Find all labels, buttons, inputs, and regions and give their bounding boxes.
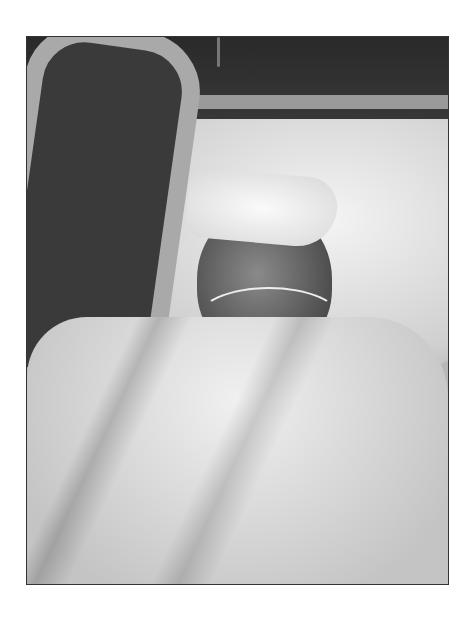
blanket bbox=[27, 317, 448, 585]
cabinet-handle bbox=[217, 37, 220, 67]
hospital-photo bbox=[26, 36, 449, 585]
forehead-towel bbox=[184, 167, 340, 250]
